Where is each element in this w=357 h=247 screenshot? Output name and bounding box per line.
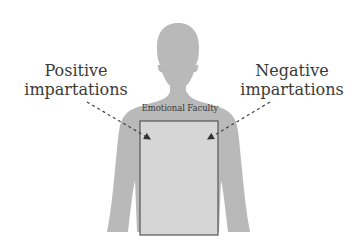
negative-impartations-label: Negative impartations <box>236 61 348 99</box>
positive-impartations-label: Positive impartations <box>24 61 128 99</box>
positive-label-line2: impartations <box>24 80 128 99</box>
positive-label-line1: Positive <box>24 61 128 80</box>
emotional-faculty-box <box>140 121 218 235</box>
figure-graphics <box>0 0 357 247</box>
emotional-faculty-title: Emotional Faculty <box>128 103 232 113</box>
negative-label-line1: Negative <box>236 61 348 80</box>
diagram-canvas: Positive impartations Negative impartati… <box>0 0 357 247</box>
negative-label-line2: impartations <box>236 80 348 99</box>
